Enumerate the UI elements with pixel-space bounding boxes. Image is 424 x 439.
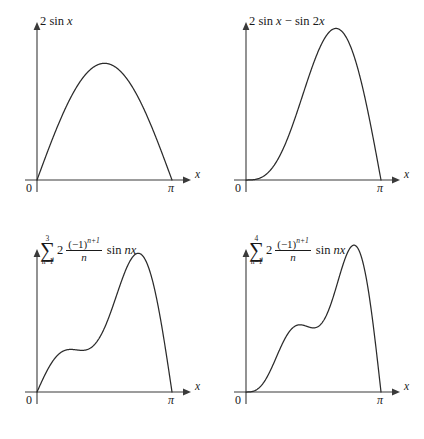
numerator-base: (−1) (277, 237, 296, 249)
summation-lower-limit: n=1 (42, 258, 54, 266)
plot-title-top-left: 2 sin x (40, 14, 73, 29)
x-axis-arrow-icon (183, 389, 191, 396)
plot-title-bottom-right: 4 ∑ n=1 2 (−1)n+1 n sin nx (249, 227, 345, 265)
fraction-numerator: (−1)n+1 (275, 237, 311, 251)
origin-label: 0 (26, 181, 32, 196)
plot-canvas-top-right (212, 0, 424, 220)
origin-label: 0 (235, 393, 241, 408)
summation-formula: 3 ∑ n=1 2 (−1)n+1 n sin nx (40, 235, 136, 265)
trig-argument: nx (334, 243, 346, 257)
pi-tick-label: π (377, 181, 383, 196)
trig-name: sin (316, 243, 334, 257)
trig-name: sin (107, 243, 125, 257)
pi-tick-label: π (168, 393, 174, 408)
function-curve (37, 253, 172, 392)
summation-lower-limit: n=1 (251, 258, 263, 266)
function-curve (246, 28, 381, 180)
coefficient: 2 (266, 244, 272, 257)
axes-top-right (234, 22, 400, 192)
plot-title-top-right: 2 sin x − sin 2x (249, 14, 324, 29)
fraction-numerator: (−1)n+1 (66, 237, 102, 251)
fraction: (−1)n+1 n (66, 237, 102, 264)
x-axis-arrow-icon (183, 177, 191, 184)
x-axis-label: x (404, 380, 409, 392)
axes-top-left (25, 22, 191, 192)
summation-formula: 4 ∑ n=1 2 (−1)n+1 n sin nx (249, 235, 345, 265)
trig-term: sin nx (107, 244, 137, 257)
numerator-exponent: n+1 (296, 236, 309, 245)
x-axis-arrow-icon (392, 177, 400, 184)
plot-panel-top-left: 2 sin x 0 π x (0, 0, 212, 220)
x-axis-label: x (195, 168, 200, 180)
pi-tick-label: π (377, 393, 383, 408)
fraction-denominator: n (288, 251, 298, 263)
sigma-with-limits: 4 ∑ n=1 (249, 235, 264, 265)
numerator-base: (−1) (68, 237, 87, 249)
trig-term: sin nx (316, 244, 346, 257)
x-axis-label: x (195, 380, 200, 392)
pi-tick-label: π (168, 181, 174, 196)
function-curve (246, 245, 381, 392)
title-lead: 2 sin (249, 14, 276, 28)
coefficient: 2 (57, 244, 63, 257)
title-tail-variable: x (319, 14, 325, 28)
fraction: (−1)n+1 n (275, 237, 311, 264)
x-axis-label: x (404, 168, 409, 180)
trig-argument: nx (125, 243, 137, 257)
sigma-with-limits: 3 ∑ n=1 (40, 235, 55, 265)
title-lead: 2 sin (40, 14, 67, 28)
plot-panel-bottom-left: 3 ∑ n=1 2 (−1)n+1 n sin nx 0 π x (0, 219, 212, 439)
plot-panel-top-right: 2 sin x − sin 2x 0 π x (212, 0, 424, 220)
axes-bottom-left (25, 249, 191, 404)
function-curve (37, 63, 172, 180)
x-axis-arrow-icon (392, 389, 400, 396)
origin-label: 0 (235, 181, 241, 196)
plot-title-bottom-left: 3 ∑ n=1 2 (−1)n+1 n sin nx (40, 227, 136, 265)
plot-panel-bottom-right: 4 ∑ n=1 2 (−1)n+1 n sin nx 0 π x (212, 219, 424, 439)
fourier-partial-sums-figure: 2 sin x 0 π x 2 sin x − sin 2x 0 π x (0, 0, 424, 439)
origin-label: 0 (26, 393, 32, 408)
numerator-exponent: n+1 (87, 236, 100, 245)
fraction-denominator: n (79, 251, 89, 263)
title-variable: x (67, 14, 73, 28)
title-tail-lead: − sin 2 (282, 14, 319, 28)
